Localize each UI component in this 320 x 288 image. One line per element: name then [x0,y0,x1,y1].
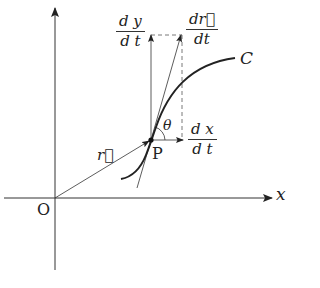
dy-dt-denominator: d t [120,32,140,49]
angle-label: θ [163,118,171,132]
curve-c [121,58,235,179]
dr-dt-numerator: dr⃗ [186,12,218,30]
origin-label: O [37,202,50,218]
point-p-dot [148,137,153,142]
point-label: P [152,146,163,162]
dx-dt-denominator: d t [192,140,212,157]
dr-dt-label: dr⃗ dt [186,12,218,47]
dy-dt-numerator: d y [116,14,145,32]
dx-dt-numerator: d x [188,122,217,140]
dy-dt-label: d y d t [116,14,145,49]
dr-dt-denominator: dt [194,30,210,47]
position-vector-label: r⃗ [97,148,113,163]
x-axis-label: x [276,186,286,203]
curve-label: C [240,50,253,67]
dx-dt-label: d x d t [188,122,217,157]
